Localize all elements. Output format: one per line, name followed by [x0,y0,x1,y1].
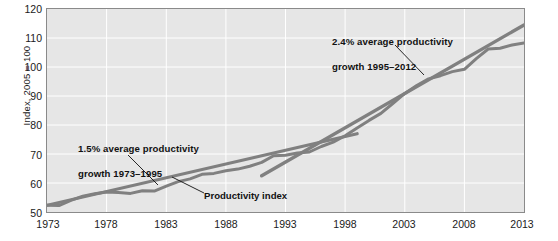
annotation-late-trend-line1: 2.4% average productivity [332,36,453,48]
annotation-early-trend-line2: growth 1973–1995 [78,168,199,180]
annotation-late-trend-line2: growth 1995–2012 [332,61,453,73]
x-tick-2013: 2013 [510,219,533,230]
y-tick-110: 110 [16,33,42,44]
y-tick-60: 60 [16,179,42,190]
productivity-index-chart: Index, 2005 = 100 120 110 100 90 80 70 6… [0,0,558,241]
x-tick-1988: 1988 [214,219,237,230]
x-tick-1998: 1998 [333,219,356,230]
x-tick-2008: 2008 [452,219,475,230]
annotation-early-trend-line1: 1.5% average productivity [78,143,199,155]
x-tick-1993: 1993 [273,219,296,230]
y-tick-100: 100 [16,62,42,73]
x-tick-1978: 1978 [94,219,117,230]
annotation-series-label: Productivity index [204,190,287,201]
y-tick-90: 90 [16,91,42,102]
x-tick-1983: 1983 [154,219,177,230]
annotation-late-trend: 2.4% average productivity growth 1995–20… [332,24,453,85]
y-tick-80: 80 [16,120,42,131]
annotation-early-trend: 1.5% average productivity growth 1973–19… [78,131,199,192]
x-tick-2003: 2003 [392,219,415,230]
y-axis-tick-labels: 120 110 100 90 80 70 60 50 [14,0,42,241]
x-tick-1973: 1973 [36,219,59,230]
y-tick-70: 70 [16,150,42,161]
y-tick-120: 120 [16,4,42,15]
x-axis-tick-labels: 1973 1978 1983 1988 1993 1998 2003 2008 … [0,219,558,237]
y-tick-50: 50 [16,208,42,219]
